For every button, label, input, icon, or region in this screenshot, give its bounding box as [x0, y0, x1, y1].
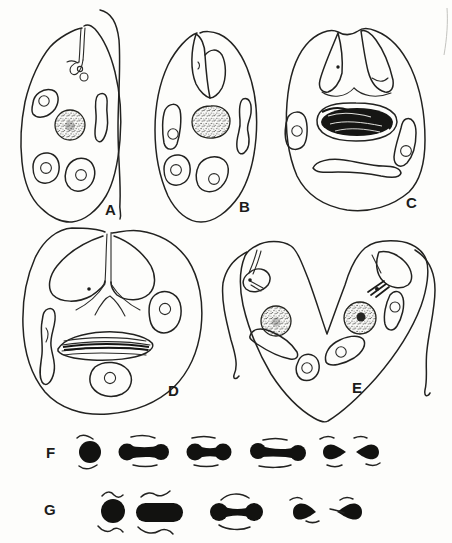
cell-c-vacuole-right	[394, 119, 416, 167]
f-stage-3	[187, 437, 232, 467]
f-stage-5	[320, 437, 380, 467]
cell-c: C	[285, 29, 425, 211]
cell-d-vacuole-left	[40, 308, 55, 384]
figure-drawing: A B	[0, 0, 452, 543]
g-stage-1	[98, 492, 125, 532]
cell-a-nucleus	[55, 110, 85, 140]
cell-e-nucleus-left	[261, 306, 291, 336]
cell-b: B	[155, 32, 257, 222]
panel-label-d: D	[168, 382, 179, 399]
cell-e-flagellum-right	[415, 250, 435, 396]
cell-a-vacuole-bottomright	[65, 158, 95, 191]
cell-a: A	[21, 10, 121, 222]
cell-e-flagellum-left	[223, 252, 247, 379]
basal-body-dot	[336, 65, 339, 68]
panel-label-e: E	[352, 379, 362, 396]
cell-b-nucleus	[192, 106, 230, 138]
cell-b-vacuole-left	[163, 104, 181, 149]
g-stage-3	[210, 494, 263, 529]
cell-d-flagellar-apparatus	[50, 234, 155, 316]
nucleus-series-g: G	[44, 491, 362, 534]
f-stage-4	[250, 439, 306, 468]
cell-b-vacuole-bottomright	[196, 157, 228, 192]
basal-body-dot	[375, 287, 379, 291]
cell-e-nucleus-right	[344, 302, 376, 334]
panel-label-g: G	[44, 501, 56, 518]
basal-body-dot	[87, 287, 91, 291]
cell-e-vacuole-right	[384, 291, 403, 329]
cell-a-flagellar-pocket	[67, 28, 88, 81]
nucleus-series-f: F	[46, 435, 380, 468]
cell-e-vacuole-center	[325, 336, 364, 365]
g-stage-2	[136, 491, 183, 534]
panel-label-f: F	[46, 444, 55, 461]
cell-c-vacuole-band	[313, 159, 401, 177]
cell-b-flagellar-pocket	[192, 34, 226, 98]
page-edge-mark	[444, 8, 447, 55]
cell-a-vacuole-bottomleft	[33, 153, 59, 183]
panel-label-a: A	[105, 201, 116, 218]
cell-e-vacuole-bottomleft	[296, 354, 319, 380]
cell-d: D	[23, 228, 202, 414]
cell-a-vacuole-topleft	[32, 90, 58, 118]
cell-e-flagellar-pocket-left	[243, 250, 270, 292]
panel-label-c: C	[406, 194, 417, 211]
cell-d-vacuole-bottom	[90, 362, 132, 396]
g-stage-5	[330, 498, 362, 520]
cell-a-vacuole-right	[95, 93, 108, 141]
cell-e: E	[223, 241, 435, 422]
basal-body-dot	[248, 278, 252, 282]
cell-c-dividing-nucleus	[317, 103, 397, 141]
cell-e-flagellar-pocket-right	[368, 252, 412, 297]
g-stage-4	[290, 498, 319, 523]
f-stage-1	[77, 435, 101, 468]
panel-label-b: B	[239, 198, 250, 215]
cell-d-vacuole-right	[149, 292, 181, 333]
cell-b-vacuole-right	[237, 99, 251, 154]
cell-b-vacuole-bottomleft	[164, 155, 190, 185]
basal-body	[80, 73, 88, 81]
f-stage-2	[119, 436, 170, 467]
figure-plate: A B	[0, 0, 452, 543]
cell-c-flagellar-pocket	[319, 30, 393, 96]
cell-d-spindle-nucleus	[58, 332, 153, 360]
